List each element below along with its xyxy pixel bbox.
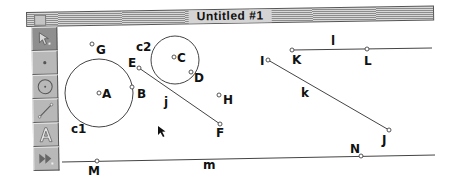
label-H: H (223, 93, 233, 107)
point-E[interactable] (137, 66, 141, 70)
point-H[interactable] (217, 93, 221, 97)
point-L[interactable] (365, 47, 369, 51)
line-m[interactable] (62, 155, 435, 162)
label-L: L (364, 54, 372, 68)
point-A[interactable] (97, 91, 101, 95)
label-A: A (102, 87, 112, 101)
label-B: B (137, 87, 146, 101)
segment-k[interactable] (268, 60, 389, 130)
label-C: C (177, 51, 186, 65)
point-K[interactable] (290, 48, 294, 52)
point-C[interactable] (172, 55, 176, 59)
label-E: E (128, 56, 136, 70)
label-K: K (292, 53, 302, 67)
label-N: N (350, 142, 360, 156)
label-I: I (260, 54, 264, 68)
point-D[interactable] (189, 70, 193, 74)
label-m: m (203, 158, 216, 172)
label-c1: c1 (71, 122, 86, 136)
point-G[interactable] (90, 42, 94, 46)
label-D: D (194, 71, 204, 85)
label-k: k (301, 86, 310, 100)
point-M[interactable] (95, 159, 99, 163)
circle-c2[interactable] (151, 36, 199, 84)
point-J[interactable] (387, 128, 391, 132)
label-M: M (88, 164, 100, 178)
segment-j[interactable] (139, 68, 220, 124)
label-c2: c2 (136, 40, 151, 54)
label-F: F (216, 126, 224, 140)
label-J: J (381, 133, 386, 147)
point-B[interactable] (130, 85, 134, 89)
point-I[interactable] (266, 58, 270, 62)
mouse-cursor-icon (158, 126, 166, 137)
sketch-canvas[interactable]: A B C D E F G H I J K L M N c1 c2 j k l … (0, 0, 456, 183)
label-j: j (163, 95, 168, 109)
label-G: G (96, 43, 106, 57)
label-l: l (331, 34, 335, 48)
line-l[interactable] (292, 48, 432, 50)
